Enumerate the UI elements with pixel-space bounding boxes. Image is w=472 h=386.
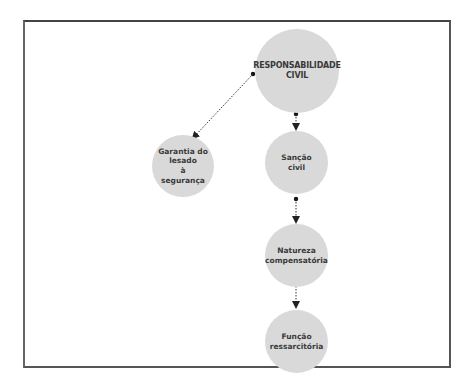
node-natureza-compensatoria: Natureza compensatória xyxy=(265,224,328,287)
connector-layer xyxy=(0,0,472,386)
node-responsabilidade-civil: RESPONSABILIDADE CIVIL xyxy=(255,29,339,113)
edge-responsabilidade-garantia xyxy=(193,72,255,138)
node-label: Garantia do lesado à segurança xyxy=(158,147,208,186)
edge-responsabilidade-sancao xyxy=(294,112,298,129)
node-funcao-ressarcitoria: Função ressarcitória xyxy=(265,310,328,373)
node-garantia-do-lesado: Garantia do lesado à segurança xyxy=(152,135,214,197)
node-label: RESPONSABILIDADE CIVIL xyxy=(253,61,341,82)
node-sancao-civil: Sanção civil xyxy=(265,131,328,194)
node-label: Função ressarcitória xyxy=(270,332,324,352)
edge-sancao-natureza xyxy=(294,197,298,222)
node-label: Natureza compensatória xyxy=(265,246,328,266)
node-label: Sanção civil xyxy=(281,153,311,173)
